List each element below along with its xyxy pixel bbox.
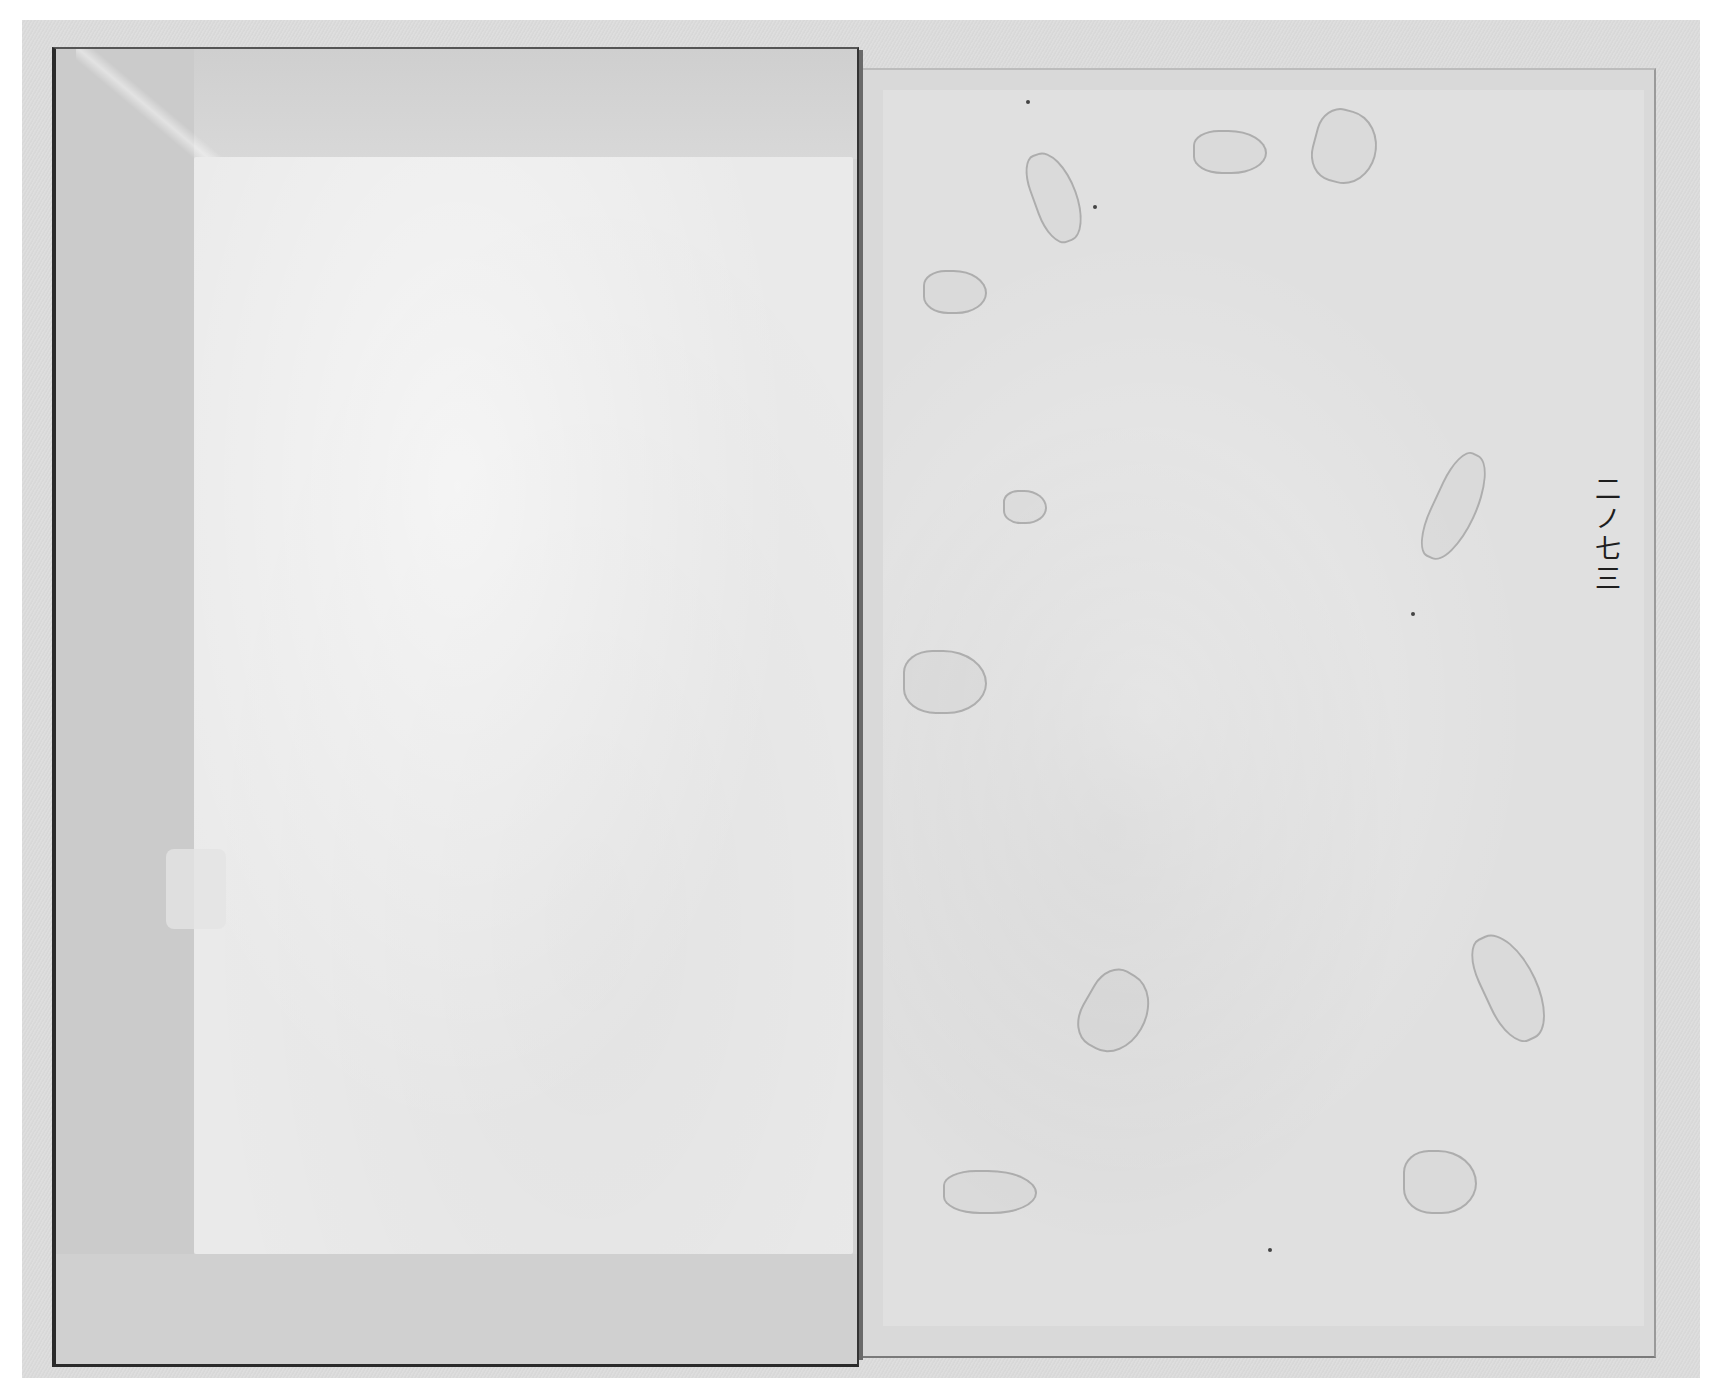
stain-mark xyxy=(903,650,987,714)
stain-mark xyxy=(1003,490,1047,524)
left-page-fold-bottom xyxy=(56,1254,857,1364)
stain-mark xyxy=(1193,130,1267,174)
page-number-marking: 二ノ七三 xyxy=(1590,475,1620,595)
stain-mark xyxy=(1403,1150,1477,1214)
ink-speck xyxy=(1411,612,1415,616)
right-page xyxy=(863,68,1656,1358)
left-page-fold-left xyxy=(56,49,194,1364)
right-page-inner xyxy=(883,90,1644,1326)
ink-speck xyxy=(1268,1248,1272,1252)
ink-speck xyxy=(1026,100,1030,104)
stain-mark xyxy=(923,270,987,314)
left-page-inner-panel xyxy=(194,157,853,1254)
ink-speck xyxy=(1093,205,1097,209)
left-page-tab-flap xyxy=(166,849,226,929)
stain-mark xyxy=(943,1170,1037,1214)
left-page xyxy=(52,47,859,1367)
